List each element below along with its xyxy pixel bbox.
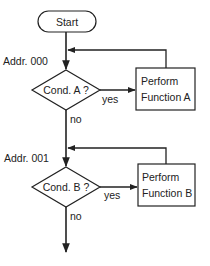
decision-b: Cond. B ? [32, 167, 100, 207]
action-b-line1: Perform [142, 171, 180, 183]
address-b-label: Addr. 001 [4, 152, 49, 164]
loop-a-arrow [68, 50, 166, 68]
condition-b-label: Cond. B ? [43, 181, 90, 193]
start-terminal: Start [38, 11, 96, 32]
action-b-line2: Function B [142, 187, 192, 199]
no-b-label: no [70, 210, 82, 222]
address-a-label: Addr. 000 [3, 55, 48, 67]
yes-b-label: yes [104, 189, 120, 201]
no-a-label: no [70, 113, 82, 125]
start-label: Start [56, 16, 78, 28]
action-a-line2: Function A [141, 91, 191, 103]
flowchart: Start Addr. 000 Cond. A ? yes Perform Fu… [0, 0, 210, 266]
action-b-box: Perform Function B [138, 164, 195, 206]
yes-a-label: yes [102, 93, 118, 105]
action-a-line1: Perform [141, 75, 179, 87]
condition-a-label: Cond. A ? [43, 84, 89, 96]
loop-b-arrow [68, 148, 166, 164]
action-a-box: Perform Function A [136, 68, 195, 110]
decision-a: Cond. A ? [32, 70, 100, 110]
